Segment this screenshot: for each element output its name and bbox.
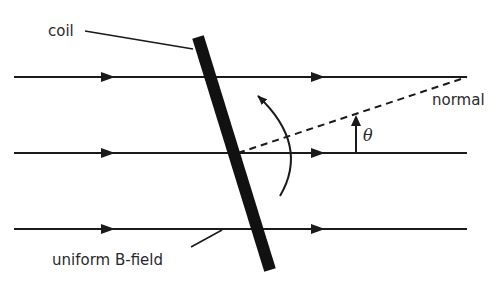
arrowhead-icon: [311, 72, 325, 82]
arrowhead-icon: [101, 72, 115, 82]
coil-label: coil: [48, 24, 74, 39]
rotation-arrow-icon: [258, 96, 291, 196]
diagram-drawing: [0, 0, 497, 287]
field-label: uniform B-field: [52, 253, 163, 268]
field-line-bottom: [14, 224, 467, 234]
arrowhead-icon: [311, 224, 325, 234]
theta-label: θ: [363, 128, 373, 144]
arrowhead-icon: [101, 148, 115, 158]
coil-leader-line: [85, 31, 193, 49]
normal-label: normal: [432, 93, 485, 108]
arrowhead-icon: [351, 115, 361, 126]
arrowhead-icon: [101, 224, 115, 234]
field-line-top: [14, 72, 467, 82]
diagram-canvas: coil normal θ uniform B-field: [0, 0, 497, 287]
field-leader-line: [191, 230, 222, 247]
arrowhead-icon: [311, 148, 325, 158]
normal-line: [238, 77, 467, 153]
